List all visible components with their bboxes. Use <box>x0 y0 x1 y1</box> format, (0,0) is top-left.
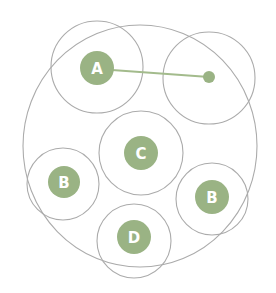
node-label: A <box>91 60 103 78</box>
node-label: B <box>58 174 69 192</box>
node-label: D <box>128 229 140 247</box>
node-target <box>203 71 215 83</box>
node-label: B <box>206 189 217 207</box>
node-d: D <box>117 220 151 254</box>
node-links <box>112 70 209 77</box>
node-label: C <box>135 145 146 163</box>
node-c: C <box>124 136 158 170</box>
circle-diagram: ACBBD <box>0 0 276 293</box>
link-A-target <box>112 70 209 77</box>
node-b-right: B <box>195 180 229 214</box>
node-dot <box>203 71 215 83</box>
node-group: ACBBD <box>48 51 229 254</box>
node-b-left: B <box>48 166 80 198</box>
node-a: A <box>80 51 114 85</box>
